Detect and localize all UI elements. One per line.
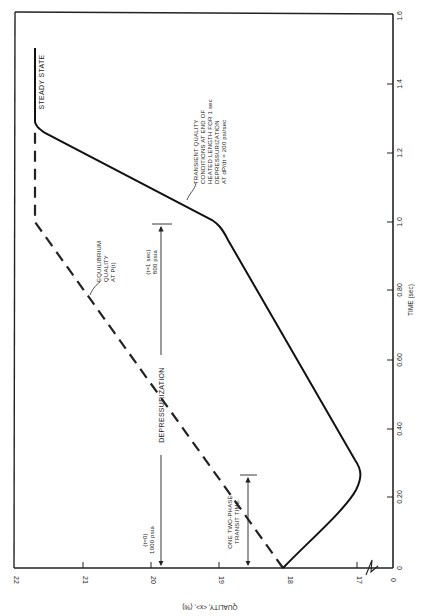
quality-ticks bbox=[83, 562, 357, 568]
quality-tick-label: 20 bbox=[150, 576, 157, 584]
svg-text:TRANSIENT QUALITY: TRANSIENT QUALITY bbox=[193, 119, 199, 184]
time-tick-label: 1.2 bbox=[396, 148, 403, 158]
svg-text:(t=0): (t=0) bbox=[142, 533, 148, 547]
svg-text:ONE TWO-PHASE: ONE TWO-PHASE bbox=[227, 495, 233, 549]
equilibrium-annotation: EQUILIBRIUM QUALITY AT P(t) bbox=[96, 241, 116, 282]
svg-text:EQUILIBRIUM: EQUILIBRIUM bbox=[96, 241, 102, 282]
time-tick-label: 1.4 bbox=[396, 79, 403, 89]
svg-text:HEATED LENGTH FOR 1 sec: HEATED LENGTH FOR 1 sec bbox=[207, 99, 213, 184]
time-tick-label: 0 bbox=[396, 566, 403, 570]
quality-tick-label: 19 bbox=[218, 576, 225, 584]
steady-state-label: STEADY STATE bbox=[38, 55, 45, 110]
time-tick-label: 1.0 bbox=[396, 217, 403, 227]
rotated-quality-vs-time-chart: 0 0.20 0.40 0.60 0.80 1.0 1.2 1.4 1.6 TI… bbox=[0, 0, 426, 616]
quality-tick-label: 21 bbox=[82, 576, 89, 584]
svg-text:AT dP/dt = 200 psi/sec: AT dP/dt = 200 psi/sec bbox=[221, 120, 227, 184]
svg-text:CONDITIONS AT END OF: CONDITIONS AT END OF bbox=[200, 109, 206, 184]
quality-tick-labels: 22 21 20 19 18 17 0 bbox=[13, 576, 397, 584]
depressurization-label: DEPRESSURIZATION bbox=[158, 367, 165, 442]
time-tick-label: 1.6 bbox=[396, 11, 403, 21]
time-axis-title: TIME (sec) bbox=[407, 284, 415, 316]
time-tick-label: 0.60 bbox=[396, 353, 403, 367]
quality-tick-label: 18 bbox=[287, 576, 294, 584]
quality-tick-label: 17 bbox=[356, 576, 363, 584]
transit-time-annotation: ONE TWO-PHASE TRANSIT TIME bbox=[227, 495, 240, 549]
svg-text:(t=1 sec): (t=1 sec) bbox=[145, 249, 151, 274]
t1-annotation: (t=1 sec) 800 psia bbox=[145, 249, 158, 274]
svg-text:800 psia: 800 psia bbox=[152, 249, 158, 274]
equilibrium-quality-curve bbox=[35, 130, 283, 568]
svg-text:1000 psia: 1000 psia bbox=[149, 526, 155, 554]
svg-text:AT P(t): AT P(t) bbox=[110, 262, 116, 282]
svg-text:QUALITY: QUALITY bbox=[103, 255, 109, 282]
quality-tick-label: 0 bbox=[390, 578, 397, 582]
equilibrium-leader-line bbox=[90, 282, 100, 295]
time-tick-labels: 0 0.20 0.40 0.60 0.80 1.0 1.2 1.4 1.6 bbox=[396, 11, 403, 570]
time-tick-label: 0.80 bbox=[396, 283, 403, 297]
transient-annotation: TRANSIENT QUALITY CONDITIONS AT END OF H… bbox=[193, 99, 227, 184]
transient-leader-line bbox=[187, 183, 196, 200]
time-ticks bbox=[387, 84, 393, 497]
time-tick-label: 0.40 bbox=[396, 422, 403, 436]
plot-frame bbox=[14, 12, 393, 568]
time-tick-label: 0.20 bbox=[396, 490, 403, 504]
quality-tick-label: 22 bbox=[13, 576, 20, 584]
svg-text:TRANSIT TIME: TRANSIT TIME bbox=[234, 500, 240, 544]
quality-axis-title: QUALITY, <x>, (%) bbox=[182, 603, 237, 611]
svg-text:DEPRESSURIZATION: DEPRESSURIZATION bbox=[214, 120, 220, 184]
t0-annotation: (t=0) 1000 psia bbox=[142, 526, 155, 554]
